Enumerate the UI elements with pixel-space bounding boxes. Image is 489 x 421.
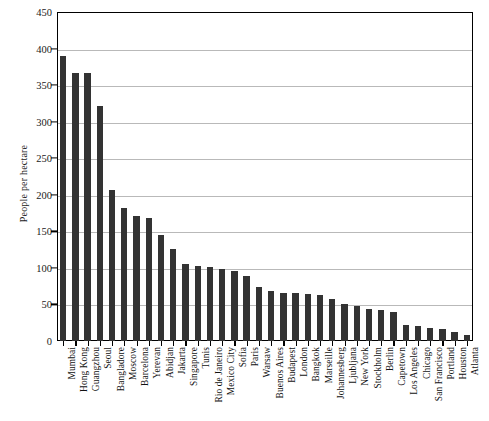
- bar[interactable]: [256, 287, 262, 341]
- x-tick-label: Bangladore: [116, 347, 126, 391]
- bar[interactable]: [390, 312, 396, 341]
- bar-slot: [109, 12, 115, 341]
- x-tick-mark: [198, 341, 199, 346]
- x-tick-label: Budapest: [287, 347, 297, 383]
- x-tick-label: Johannesberg: [336, 347, 346, 399]
- x-tick-mark: [247, 341, 248, 346]
- bar-slot: [329, 12, 335, 341]
- x-tick-mark: [455, 341, 456, 346]
- bar[interactable]: [219, 269, 225, 341]
- x-tick-label: Jakarta: [177, 347, 187, 374]
- bar[interactable]: [354, 306, 360, 341]
- x-tick-label: Mumbai: [67, 347, 77, 379]
- bar[interactable]: [97, 106, 103, 341]
- bar[interactable]: [415, 326, 421, 341]
- x-tick-mark: [345, 341, 346, 346]
- x-tick-label: Buenos Aires: [275, 347, 285, 398]
- x-tick-mark: [320, 341, 321, 346]
- bar[interactable]: [305, 294, 311, 341]
- y-tick-label-450: 450: [8, 7, 52, 18]
- x-tick-label: San Francisco: [434, 347, 444, 401]
- bar[interactable]: [231, 271, 237, 341]
- bar[interactable]: [427, 328, 433, 341]
- bar-slot: [231, 12, 237, 341]
- bar[interactable]: [133, 216, 139, 341]
- x-tick-mark: [393, 341, 394, 346]
- bar[interactable]: [72, 73, 78, 341]
- y-tick-label-300: 300: [8, 116, 52, 127]
- bar[interactable]: [280, 293, 286, 341]
- bar[interactable]: [451, 332, 457, 341]
- x-tick-label: Yerevan: [152, 347, 162, 379]
- bar-slot: [378, 12, 384, 341]
- bar[interactable]: [317, 295, 323, 341]
- bar-slot: [292, 12, 298, 341]
- bar[interactable]: [158, 235, 164, 341]
- bar[interactable]: [182, 264, 188, 341]
- x-tick-mark: [222, 341, 223, 346]
- bar[interactable]: [292, 293, 298, 341]
- bars-layer: [57, 12, 473, 341]
- bar-slot: [366, 12, 372, 341]
- bar-slot: [158, 12, 164, 341]
- x-tick-label: Bangkok: [311, 347, 321, 382]
- x-tick-mark: [63, 341, 64, 346]
- bar-slot: [84, 12, 90, 341]
- x-tick-mark: [296, 341, 297, 346]
- bar[interactable]: [366, 309, 372, 341]
- y-tick-label-400: 400: [8, 43, 52, 54]
- x-tick-label: Ljubljana: [348, 347, 358, 384]
- bar[interactable]: [121, 208, 127, 341]
- x-axis-labels: MumbaiHong KongGuangzhouSeoulBangladoreM…: [57, 341, 473, 421]
- population-density-bar-chart: People per hectare 050100150200250300350…: [0, 0, 489, 421]
- x-tick-mark: [88, 341, 89, 346]
- bar-slot: [280, 12, 286, 341]
- bar[interactable]: [268, 291, 274, 341]
- x-tick-label: Atlanta: [470, 347, 480, 375]
- bar[interactable]: [170, 249, 176, 341]
- x-tick-mark: [442, 341, 443, 346]
- x-tick-label: Stockholm: [373, 347, 383, 389]
- x-tick-label: Berlin: [385, 347, 395, 371]
- bar[interactable]: [341, 304, 347, 341]
- x-tick-mark: [75, 341, 76, 346]
- bar[interactable]: [195, 266, 201, 341]
- bar-slot: [415, 12, 421, 341]
- bar[interactable]: [378, 310, 384, 341]
- x-tick-mark: [308, 341, 309, 346]
- bar[interactable]: [439, 329, 445, 341]
- bar-slot: [390, 12, 396, 341]
- x-tick-label: Paris: [250, 347, 260, 366]
- x-tick-mark: [100, 341, 101, 346]
- x-tick-label: Mexico City: [226, 347, 236, 395]
- bar-slot: [354, 12, 360, 341]
- bar[interactable]: [109, 190, 115, 341]
- x-tick-label: Capetown: [397, 347, 407, 386]
- x-tick-label: Moscow: [128, 347, 138, 380]
- x-tick-label: Sofia: [238, 347, 248, 367]
- bar-slot: [341, 12, 347, 341]
- bar-slot: [207, 12, 213, 341]
- x-tick-label: Chicago: [422, 347, 432, 379]
- x-tick-mark: [185, 341, 186, 346]
- bar[interactable]: [207, 267, 213, 341]
- bar[interactable]: [60, 56, 66, 341]
- bar-slot: [256, 12, 262, 341]
- bar-slot: [121, 12, 127, 341]
- y-tick-label-0: 0: [8, 336, 52, 347]
- x-tick-label: Seoul: [103, 347, 113, 369]
- bar-slot: [60, 12, 66, 341]
- bar[interactable]: [243, 276, 249, 341]
- bar[interactable]: [329, 299, 335, 341]
- bar[interactable]: [403, 325, 409, 341]
- y-tick-label-150: 150: [8, 226, 52, 237]
- x-tick-mark: [112, 341, 113, 346]
- x-tick-mark: [369, 341, 370, 346]
- x-tick-label: Abidjan: [165, 347, 175, 378]
- bar-slot: [403, 12, 409, 341]
- bar[interactable]: [84, 73, 90, 341]
- bar-slot: [146, 12, 152, 341]
- x-tick-label: Barcelona: [140, 347, 150, 386]
- bar[interactable]: [146, 218, 152, 341]
- y-tick-label-200: 200: [8, 189, 52, 200]
